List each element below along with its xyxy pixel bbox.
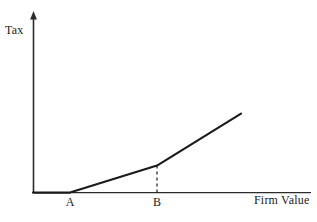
chart-canvas	[0, 0, 317, 222]
y-axis-arrow-icon	[30, 11, 37, 20]
y-axis	[30, 11, 37, 193]
tax-schedule-polyline	[33, 114, 241, 193]
tax-firm-value-chart: Tax Firm Value A B	[0, 0, 317, 222]
x-tick-label-a: A	[60, 195, 80, 210]
x-tick-label-b: B	[147, 195, 167, 210]
tax-schedule-line	[33, 114, 241, 193]
y-axis-label: Tax	[5, 23, 23, 38]
x-axis-label: Firm Value	[254, 193, 309, 208]
